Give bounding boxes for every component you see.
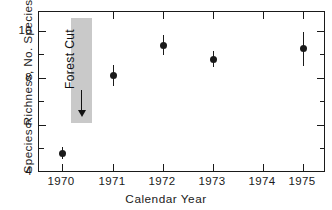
y-tick-right-major-10 <box>317 31 324 32</box>
y-tick-label-6: 6 <box>2 118 32 130</box>
x-tick-1973 <box>213 164 214 171</box>
y-tick-right-minor-7 <box>320 101 325 102</box>
y-tick-minor-7 <box>39 101 44 102</box>
y-tick-right-major-8 <box>317 78 324 79</box>
marker-1972 <box>160 42 167 49</box>
forest-cut-arrow-shaft <box>81 90 83 112</box>
x-tick-1974 <box>263 164 264 171</box>
y-tick-label-4: 4 <box>2 165 32 177</box>
x-tick-top-1973 <box>213 12 214 19</box>
marker-1971 <box>110 72 117 79</box>
plot-area: Forest Cut <box>38 11 325 172</box>
y-tick-major-8 <box>39 78 46 79</box>
forest-cut-arrow-icon <box>78 110 86 117</box>
y-tick-minor-9 <box>39 54 44 55</box>
x-tick-1971 <box>113 164 114 171</box>
marker-1970 <box>59 150 66 157</box>
x-tick-top-1971 <box>113 12 114 19</box>
x-tick-top-1972 <box>163 12 164 19</box>
x-axis-title: Calendar Year <box>0 192 332 206</box>
y-tick-right-minor-9 <box>320 54 325 55</box>
forest-cut-label: Forest Cut <box>63 24 77 94</box>
x-tick-1970 <box>62 164 63 171</box>
x-tick-1975 <box>303 164 304 171</box>
y-tick-major-4 <box>39 171 46 172</box>
y-tick-right-minor-5 <box>320 148 325 149</box>
marker-1973 <box>210 56 217 63</box>
x-tick-top-1975 <box>303 12 304 19</box>
x-tick-top-1974 <box>263 12 264 19</box>
x-tick-1972 <box>163 164 164 171</box>
y-tick-right-major-6 <box>317 125 324 126</box>
y-tick-label-8: 8 <box>2 71 32 83</box>
y-tick-major-6 <box>39 125 46 126</box>
chart-figure: Species Richness, No. Species/m2 10 8 6 … <box>0 0 332 210</box>
x-tick-label-1975: 1975 <box>272 175 332 187</box>
y-tick-right-major-4 <box>317 171 324 172</box>
y-tick-major-10 <box>39 31 46 32</box>
y-tick-label-10: 10 <box>2 24 32 36</box>
marker-1975 <box>300 45 307 52</box>
y-tick-minor-5 <box>39 148 44 149</box>
